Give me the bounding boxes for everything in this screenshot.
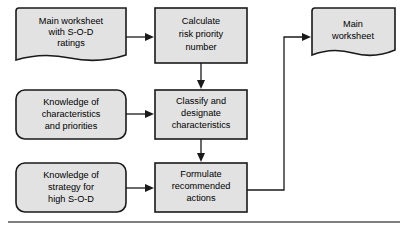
flowchart-diagram: Main worksheet with S-O-D ratings Calcul… [0,0,406,233]
node-label-line: Knowledge of [43,170,99,180]
node-label-line: Main [343,19,363,29]
node-label-line: Classify and [176,96,226,106]
node-label-line: and priorities [45,121,98,131]
arrow-head-icon [197,80,205,89]
node-formulate-actions[interactable]: Formulate recommended actions [155,163,247,212]
node-label-line: risk priority [179,29,224,39]
node-label-line: Formulate [180,169,221,179]
connector-input-to-calculate [126,33,154,41]
node-label-line: characteristics [172,120,231,130]
node-label-line: Main worksheet [39,16,104,26]
node-label-line: number [185,42,216,52]
connector-knowledge-to-classify [126,110,154,118]
node-label-line: designate [181,108,221,118]
node-label-line: worksheet [331,31,374,41]
node-main-worksheet-input[interactable]: Main worksheet with S-O-D ratings [16,8,126,60]
node-label-line: recommended [172,181,231,191]
node-classify-designate[interactable]: Classify and designate characteristics [155,90,247,139]
connector-classify-to-formulate [197,139,205,162]
node-label-line: actions [186,193,216,203]
arrow-head-icon [145,184,154,192]
node-knowledge-strategy[interactable]: Knowledge of strategy for high S-O-D [16,163,126,212]
node-label-line: Calculate [182,16,220,26]
node-label-line: Knowledge of [43,97,99,107]
node-label-line: ratings [57,38,85,48]
arrow-head-icon [302,33,311,41]
arrow-head-icon [145,110,154,118]
arrow-head-icon [145,33,154,41]
connector-strategy-to-formulate [126,184,154,192]
node-label-line: with S-O-D [48,27,94,37]
node-label-line: characteristics [42,109,101,119]
node-label-line: high S-O-D [48,194,94,204]
node-label-line: strategy for [48,182,94,192]
node-knowledge-characteristics[interactable]: Knowledge of characteristics and priorit… [16,90,126,139]
arrow-head-icon [197,153,205,162]
connector-calculate-to-classify [197,63,205,89]
connector-formulate-to-output [247,33,311,190]
node-main-worksheet-output[interactable]: Main worksheet [312,8,395,55]
node-calculate-rpn[interactable]: Calculate risk priority number [155,8,247,63]
